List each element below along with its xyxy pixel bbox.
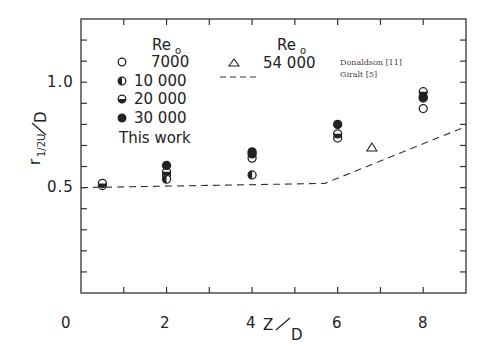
left-half-filled-circle-marker	[118, 77, 126, 85]
legend-source-giralt: Giralt [5]	[340, 70, 377, 79]
svg-text:D: D	[291, 326, 303, 344]
open-circle-marker	[118, 58, 126, 66]
chart: 0 2 4 6 8 0.5 1.0 Z D r 1/2U D Re o 7000…	[0, 0, 491, 347]
x-tick-label-8: 8	[418, 314, 428, 332]
y-tick-label-1.0: 1.0	[47, 73, 74, 91]
open-circle-marker	[419, 105, 427, 113]
legend-label-10000: 10 000	[134, 72, 187, 90]
legend-symbols	[118, 58, 126, 122]
legend-other-work: Re o 54 000 Donaldson [11] Giralt [5]	[220, 36, 402, 79]
legend-label-20000: 20 000	[134, 90, 187, 108]
filled-circle-marker	[163, 161, 171, 169]
svg-text:Re: Re	[277, 36, 296, 54]
legend-label-30000: 30 000	[134, 109, 187, 127]
svg-text:D: D	[32, 111, 50, 123]
svg-text:r: r	[26, 158, 44, 165]
open-triangle-marker	[367, 143, 377, 151]
x-tick-label-6: 6	[332, 314, 342, 332]
x-tick-label-4: 4	[246, 314, 256, 332]
y-axis-label: r 1/2U D	[26, 111, 50, 165]
x-axis-label: Z D	[263, 316, 303, 344]
svg-text:Re: Re	[152, 36, 171, 54]
x-tick-label-0: 0	[61, 314, 71, 332]
legend-label-54000: 54 000	[263, 54, 316, 72]
bottom-half-filled-circle-marker	[334, 130, 342, 138]
svg-text:Z: Z	[263, 316, 273, 334]
filled-circle-marker	[419, 93, 427, 101]
filled-circle-marker	[334, 120, 342, 128]
legend-label-7000: 7000	[151, 53, 189, 71]
x-tick-label-2: 2	[160, 314, 170, 332]
y-tick-label-0.5: 0.5	[47, 178, 74, 196]
triangle-icon	[229, 59, 239, 66]
filled-circle-marker	[248, 148, 256, 156]
legend-this-work-label: This work	[118, 129, 191, 147]
legend-this-work: Re o 7000 10 000 20 000 30 000 This work	[118, 36, 191, 147]
legend-source-donaldson: Donaldson [11]	[340, 58, 402, 67]
svg-text:1/2U: 1/2U	[36, 134, 47, 157]
bottom-half-filled-circle-marker	[118, 95, 126, 103]
left-half-filled-circle-marker	[248, 171, 256, 179]
filled-circle-marker	[118, 114, 126, 122]
bottom-half-filled-circle-marker	[98, 179, 106, 187]
